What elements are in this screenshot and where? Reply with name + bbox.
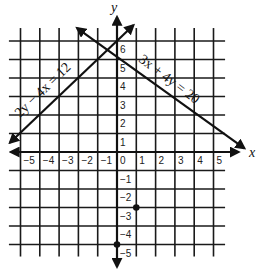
- y-tick-label: 4: [120, 81, 126, 92]
- y-tick-label: −5: [120, 248, 132, 259]
- equation-line-b: [77, 28, 244, 148]
- x-tick-label: 2: [159, 155, 165, 166]
- x-tick-label: 3: [178, 155, 184, 166]
- y-axis-label: y: [109, 0, 118, 15]
- y-tick-label: 6: [120, 44, 126, 55]
- y-tick-label: −1: [120, 174, 132, 185]
- x-tick-label: −5: [24, 155, 36, 166]
- y-tick-label: −2: [120, 192, 132, 203]
- x-tick-label: −1: [101, 155, 113, 166]
- coordinate-plane: −5−4−3−2−1123450654321−1−2−3−4−5 x y 2y …: [0, 0, 258, 269]
- plotted-point: [114, 241, 121, 248]
- y-tick-label: −4: [120, 229, 132, 240]
- origin-label: 0: [120, 155, 126, 166]
- x-tick-label: 5: [217, 155, 223, 166]
- y-tick-label: 1: [120, 137, 126, 148]
- x-axis-label: x: [248, 145, 256, 160]
- y-tick-label: −3: [120, 211, 132, 222]
- x-tick-label: −4: [43, 155, 55, 166]
- x-tick-label: −3: [62, 155, 74, 166]
- x-tick-label: −2: [81, 155, 93, 166]
- x-tick-label: 1: [139, 155, 145, 166]
- equation-line-a: [10, 25, 134, 142]
- plotted-point: [133, 204, 140, 211]
- y-tick-label: 5: [120, 63, 126, 74]
- y-tick-label: 2: [120, 118, 126, 129]
- y-tick-label: 3: [120, 100, 126, 111]
- x-tick-label: 4: [197, 155, 203, 166]
